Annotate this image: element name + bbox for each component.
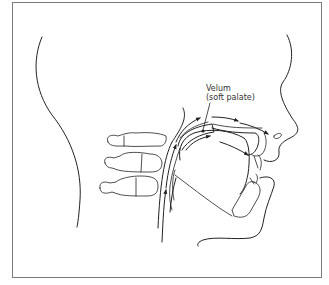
face-profile-outline	[264, 35, 298, 162]
velum-label-line2: (soft palate)	[206, 93, 255, 102]
head-back-outline	[36, 37, 80, 227]
cervical-vertebrae	[100, 133, 166, 196]
velum-outline	[178, 124, 214, 150]
hard-palate-outline	[212, 128, 259, 155]
upper-teeth	[254, 155, 261, 170]
pharynx-posterior-wall	[158, 108, 185, 228]
lower-teeth	[250, 174, 258, 184]
lower-lip-chin-outline	[198, 177, 275, 246]
velum-label: Velum (soft palate)	[206, 84, 255, 102]
velum-pointer-dot	[201, 129, 204, 132]
nostril-shape	[274, 133, 282, 138]
floor-of-mouth	[175, 175, 232, 216]
velum-label-line1: Velum	[206, 84, 255, 93]
mandible-outline	[232, 182, 260, 218]
vocal-tract-diagram	[0, 0, 329, 285]
velum-pointer-line	[203, 103, 210, 130]
tongue-outline	[180, 130, 250, 194]
airflow-arrows	[162, 117, 268, 242]
